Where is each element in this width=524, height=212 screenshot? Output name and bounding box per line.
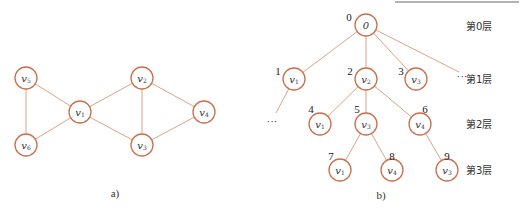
graph-b-bfs-tree: 00v11v22v33v14v35v46v17v48v39 ······ 第0层… (267, 11, 493, 202)
bfs-figure: v5v6v1v2v3v4 a) 00v11v22v33v14v35v46v17v… (0, 0, 524, 212)
node-v2: v2 (131, 67, 153, 89)
graph-a-edges (26, 83, 194, 140)
node-v1: v1 (69, 101, 91, 123)
caption-b: b) (376, 189, 386, 202)
tree-edge (371, 134, 386, 161)
level-label-3: 第3层 (466, 164, 492, 176)
node-v5: v5 (15, 67, 37, 89)
graph-b-nodes: 00v11v22v33v14v35v46v17v48v39 (275, 11, 458, 181)
edge-v6-v1 (35, 118, 70, 140)
tree-edge (345, 134, 360, 161)
tree-node-6: v4 (409, 113, 431, 135)
edge-v1-v2 (90, 83, 133, 106)
level-label-1: 第1层 (466, 73, 492, 85)
tree-node-4: v1 (309, 113, 331, 135)
visit-order-label: 0 (346, 11, 352, 23)
tree-node-7: v1 (329, 159, 351, 181)
level-label-2: 第2层 (466, 118, 492, 130)
tree-node-0: 0 (355, 14, 377, 36)
tree-edge-partial (276, 89, 289, 113)
node-v4: v4 (193, 101, 215, 123)
visit-order-label: 2 (347, 65, 353, 77)
tree-node-8: v4 (381, 159, 403, 181)
visit-order-label: 7 (328, 150, 334, 162)
tree-edge-partial (376, 30, 459, 72)
edge-v5-v1 (35, 84, 70, 106)
level-label-0: 第0层 (466, 20, 492, 32)
node-v6: v6 (15, 134, 37, 156)
graph-a-nodes: v5v6v1v2v3v4 (15, 67, 215, 156)
visit-order-label: 8 (389, 150, 395, 162)
caption-a: a) (111, 187, 120, 200)
node-v3: v3 (131, 134, 153, 156)
edge-v2-v4 (152, 83, 195, 106)
visit-order-label: 1 (275, 65, 281, 77)
visit-order-label: 6 (422, 103, 428, 115)
tree-node-2: v2 (355, 68, 377, 90)
graph-b-edges (276, 30, 459, 161)
visit-order-label: 9 (444, 150, 450, 162)
tree-node-1: v1 (283, 68, 305, 90)
visit-order-label: 5 (354, 103, 360, 115)
graph-a: v5v6v1v2v3v4 a) (15, 67, 215, 200)
tree-edge (426, 133, 442, 160)
tree-edge (374, 86, 411, 117)
edge-v1-v3 (90, 117, 133, 140)
edge-v3-v4 (152, 117, 195, 140)
tree-node-5: v3 (355, 113, 377, 135)
tree-node-3: v3 (405, 68, 427, 90)
ellipsis: ··· (267, 115, 278, 127)
visit-order-label: 4 (308, 103, 314, 115)
node-label: 0 (363, 20, 370, 31)
visit-order-label: 3 (398, 65, 404, 77)
tree-node-9: v3 (436, 159, 458, 181)
